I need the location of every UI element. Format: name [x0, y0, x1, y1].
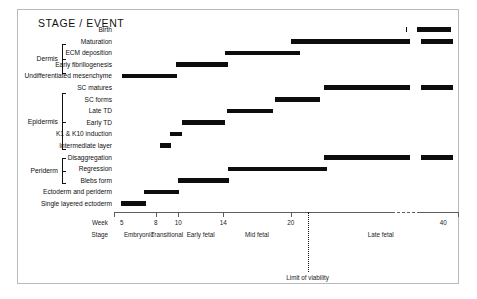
gantt-bar: [227, 109, 273, 114]
gantt-bar: [421, 85, 452, 90]
axis-stage-label: Early fetal: [187, 231, 215, 238]
row-label: Disaggregation: [0, 154, 112, 162]
limit-of-viability-label: Limit of viability: [286, 274, 329, 281]
row-label: K1 & K10 induction: [0, 130, 112, 138]
group-label: Epidermis: [12, 118, 58, 125]
axis-tick: [291, 212, 292, 217]
row-label: Intermediate layer: [0, 142, 112, 150]
axis-line: [420, 212, 459, 213]
gantt-bar: [225, 51, 299, 56]
gantt-bar: [144, 190, 179, 195]
gantt-bar: [176, 62, 228, 67]
axis-break-dashes: [392, 212, 420, 213]
axis-stage-label: Embryonic: [124, 231, 154, 238]
axis-week-caption: Week: [62, 219, 108, 226]
gantt-bar: [178, 178, 229, 183]
figure-root: STAGE / EVENT BirthMaturationECM deposit…: [0, 0, 477, 299]
gantt-plot-area: [114, 24, 459, 210]
row-label: Single layered ectoderm: [0, 200, 112, 208]
axis-stage-caption: Stage: [62, 231, 108, 238]
row-label: SC forms: [0, 96, 112, 104]
group-bracket: [62, 44, 66, 74]
row-label: Undifferentiated mesenchyme: [0, 72, 112, 80]
row-label: Late TD: [0, 107, 112, 115]
axis-tick-label: 14: [220, 219, 227, 226]
axis-tick-label: 40: [440, 219, 447, 226]
gantt-bar: [170, 132, 181, 137]
gantt-bar: [406, 27, 408, 32]
gantt-bar: [122, 74, 177, 79]
gantt-bar: [324, 155, 405, 160]
row-label-column: BirthMaturationECM depositionEarly fibri…: [0, 0, 112, 299]
gantt-bar: [228, 167, 327, 172]
axis-stage-label: Transitional: [151, 231, 183, 238]
axis-end-cap: [114, 212, 115, 217]
group-label: Dermis: [12, 55, 58, 62]
row-label: Ectoderm and periderm: [0, 188, 112, 196]
gantt-bar: [417, 27, 452, 32]
row-label: Blebs form: [0, 177, 112, 185]
gantt-bar: [421, 39, 452, 44]
axis-tick-label: 5: [120, 219, 124, 226]
axis-end-cap: [458, 212, 459, 217]
week-axis: 5810142040EmbryonicTransitionalEarly fet…: [114, 212, 459, 214]
axis-tick: [156, 212, 157, 217]
group-bracket: [62, 93, 66, 150]
row-label: SC matures: [0, 84, 112, 92]
gantt-bar: [182, 120, 226, 125]
row-label: Maturation: [0, 38, 112, 46]
group-bracket: [62, 158, 66, 184]
gantt-bar: [421, 155, 452, 160]
limit-of-viability-line: [308, 212, 309, 272]
axis-tick-label: 10: [175, 219, 182, 226]
gantt-bar: [160, 143, 171, 148]
gantt-bar: [275, 97, 320, 102]
group-label: Periderm: [12, 167, 58, 174]
gantt-bar: [121, 201, 146, 206]
axis-stage-label: Late fetal: [368, 231, 394, 238]
gantt-bar: [406, 155, 411, 160]
gantt-bar: [406, 39, 411, 44]
axis-stage-label: Mid fetal: [245, 231, 269, 238]
axis-tick: [223, 212, 224, 217]
axis-tick: [178, 212, 179, 217]
gantt-bar: [406, 85, 411, 90]
row-label: Birth: [0, 26, 112, 34]
axis-tick-label: 20: [287, 219, 294, 226]
gantt-bar: [291, 39, 406, 44]
axis-tick-label: 8: [154, 219, 158, 226]
gantt-bar: [324, 85, 405, 90]
